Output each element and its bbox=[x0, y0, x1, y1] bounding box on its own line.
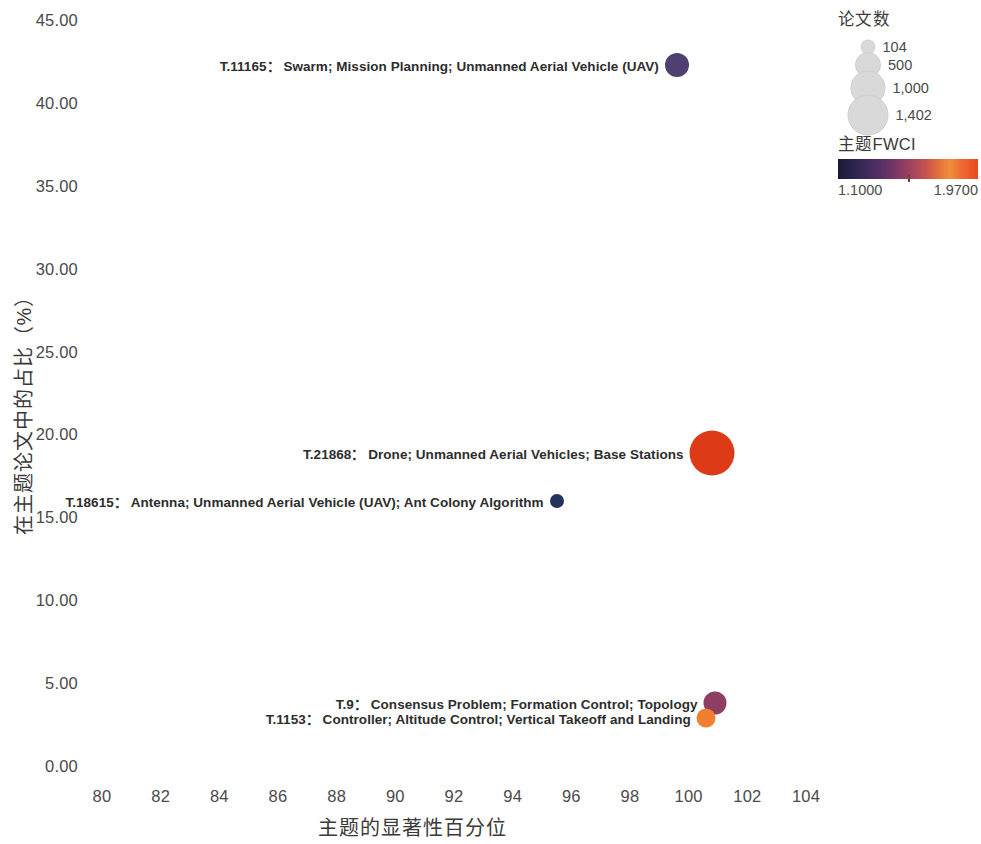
gradient-scale-labels: 1.1000 1.9700 bbox=[838, 182, 978, 202]
y-axis-tick: 35.00 bbox=[8, 177, 78, 196]
x-axis-tick: 88 bbox=[317, 787, 357, 806]
gradient-min-label: 1.1000 bbox=[838, 182, 882, 198]
x-axis-tick: 102 bbox=[727, 787, 767, 806]
x-axis-tick: 94 bbox=[493, 787, 533, 806]
x-axis-tick: 96 bbox=[551, 787, 591, 806]
gradient-max-label: 1.9700 bbox=[934, 182, 978, 198]
scatter-plot-area: T.11165： Swarm; Mission Planning; Unmann… bbox=[0, 0, 981, 844]
scatter-bubble[interactable] bbox=[665, 53, 689, 77]
x-axis-tick: 100 bbox=[669, 787, 709, 806]
x-axis-tick: 92 bbox=[434, 787, 474, 806]
y-axis-tick: 40.00 bbox=[8, 94, 78, 113]
scatter-bubble[interactable] bbox=[550, 494, 564, 508]
fwci-color-gradient bbox=[838, 159, 978, 179]
scatter-point-id: T.21868： bbox=[303, 447, 364, 462]
x-axis-title: 主题的显著性百分位 bbox=[0, 812, 903, 841]
scatter-point-id: T.11165： bbox=[220, 59, 280, 74]
scatter-point-keywords: Antenna; Unmanned Aerial Vehicle (UAV); … bbox=[127, 495, 544, 510]
scatter-point-keywords: Drone; Unmanned Aerial Vehicles; Base St… bbox=[364, 447, 683, 462]
legend-size-label: 1,000 bbox=[893, 80, 929, 96]
scatter-bubble[interactable] bbox=[697, 709, 716, 728]
x-axis-tick: 98 bbox=[610, 787, 650, 806]
x-axis-tick: 80 bbox=[82, 787, 122, 806]
legend-size-title: 论文数 bbox=[838, 6, 981, 30]
scatter-point-id: T.9： bbox=[336, 697, 367, 712]
scatter-point-keywords: Swarm; Mission Planning; Unmanned Aerial… bbox=[280, 59, 659, 74]
x-axis-tick: 90 bbox=[375, 787, 415, 806]
chart-legend: 论文数 1045001,0001,402 主题FWCI 1.1000 1.970… bbox=[838, 6, 981, 202]
scatter-point-label: T.1153： Controller; Altitude Control; Ve… bbox=[266, 708, 691, 728]
y-axis-tick: 45.00 bbox=[8, 11, 78, 30]
legend-color-title: 主题FWCI bbox=[838, 131, 981, 155]
chart-canvas: 0.005.0010.0015.0020.0025.0030.0035.0040… bbox=[0, 0, 981, 844]
y-axis-tick: 10.00 bbox=[8, 591, 78, 610]
scatter-point-keywords: Consensus Problem; Formation Control; To… bbox=[367, 697, 698, 712]
scatter-point-keywords: Controller; Altitude Control; Vertical T… bbox=[319, 712, 691, 727]
legend-size-scale: 1045001,0001,402 bbox=[838, 33, 981, 117]
x-axis-tick: 82 bbox=[141, 787, 181, 806]
y-axis-tick: 0.00 bbox=[8, 757, 78, 776]
y-axis-tick: 5.00 bbox=[8, 674, 78, 693]
legend-size-label: 104 bbox=[883, 39, 907, 55]
y-axis-title: 在主题论文中的占比（%） bbox=[8, 251, 37, 571]
x-axis-tick: 104 bbox=[786, 787, 826, 806]
scatter-bubble[interactable] bbox=[690, 431, 735, 476]
legend-size-circle bbox=[848, 95, 889, 136]
legend-size-label: 1,402 bbox=[896, 107, 932, 123]
scatter-point-label: T.9： Consensus Problem; Formation Contro… bbox=[336, 693, 698, 713]
x-axis-tick: 86 bbox=[258, 787, 298, 806]
scatter-point-id: T.1153： bbox=[266, 712, 319, 727]
scatter-point-label: T.21868： Drone; Unmanned Aerial Vehicles… bbox=[303, 443, 684, 463]
x-axis-tick: 84 bbox=[199, 787, 239, 806]
legend-size-label: 500 bbox=[888, 57, 912, 73]
scatter-point-label: T.18615： Antenna; Unmanned Aerial Vehicl… bbox=[65, 491, 543, 511]
gradient-tick-marker bbox=[908, 175, 910, 182]
scatter-point-label: T.11165： Swarm; Mission Planning; Unmann… bbox=[220, 55, 659, 75]
